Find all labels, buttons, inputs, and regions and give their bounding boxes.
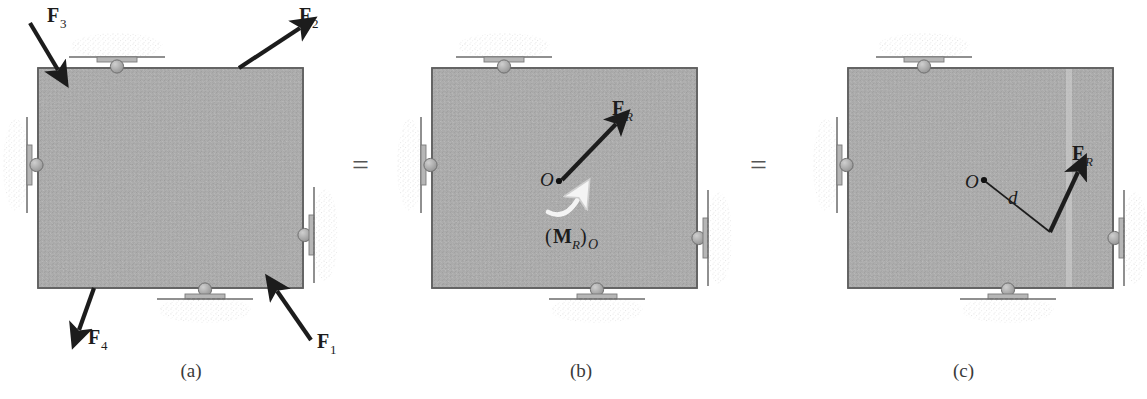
resultant-force-subscript: R: [624, 109, 633, 124]
moment-subscript: R: [571, 237, 580, 252]
roller-support-bottom: [157, 283, 253, 323]
moment-open-paren: (: [545, 225, 552, 248]
figure-container: F 3 F 2 F 4 F 1 (a) =: [0, 0, 1147, 399]
roller-support-left: [3, 117, 43, 213]
roller-support-top: [69, 33, 165, 73]
point-o-dot: [556, 178, 562, 184]
force-f4-label: F: [88, 326, 100, 348]
resultant-force-label: F: [612, 97, 624, 119]
panel-c: d O F R (c): [780, 0, 1147, 399]
roller-support-right: [692, 190, 732, 286]
point-o-label: O: [965, 171, 979, 192]
point-o-label: O: [540, 169, 554, 190]
force-f2-label: F: [299, 4, 311, 26]
panel-b: F R O ( M R ) O (b): [382, 0, 780, 399]
resultant-force-subscript: R: [1084, 154, 1093, 169]
equals-sign-2: =: [750, 150, 767, 180]
caption-a: (a): [0, 360, 382, 382]
moment-close-paren: ): [580, 225, 587, 248]
equals-sign-1: =: [352, 150, 369, 180]
roller-support-left: [813, 117, 853, 213]
roller-support-top: [876, 33, 972, 73]
force-f1-label: F: [317, 330, 329, 352]
point-o-dot: [981, 177, 987, 183]
force-f3-subscript: 3: [60, 16, 67, 31]
force-f4-subscript: 4: [101, 338, 108, 353]
force-f1-arrow: [277, 291, 311, 340]
roller-support-right: [298, 187, 338, 283]
force-f1-subscript: 1: [330, 342, 337, 357]
force-f3-label: F: [47, 4, 59, 26]
force-f4-arrow: [79, 288, 94, 330]
force-f2-subscript: 2: [312, 16, 319, 31]
panel-a-drawing: F 3 F 2 F 4 F 1: [0, 0, 382, 360]
roller-support-top: [456, 33, 552, 73]
panel-a: F 3 F 2 F 4 F 1 (a): [0, 0, 382, 399]
roller-support-bottom: [960, 283, 1056, 323]
force-f2-arrow: [239, 28, 300, 68]
resultant-force-label: F: [1072, 142, 1084, 164]
caption-c: (c): [780, 360, 1147, 382]
caption-b: (b): [382, 360, 780, 382]
panel-c-drawing: d O F R: [780, 0, 1147, 360]
block-a: [38, 68, 303, 288]
moment-label: M: [553, 225, 572, 247]
moment-point-subscript: O: [588, 237, 598, 252]
roller-support-left: [397, 117, 437, 213]
roller-support-bottom: [549, 283, 645, 323]
force-f3-arrow: [30, 23, 58, 70]
panel-b-drawing: F R O ( M R ) O: [382, 0, 780, 360]
distance-label: d: [1008, 187, 1018, 208]
